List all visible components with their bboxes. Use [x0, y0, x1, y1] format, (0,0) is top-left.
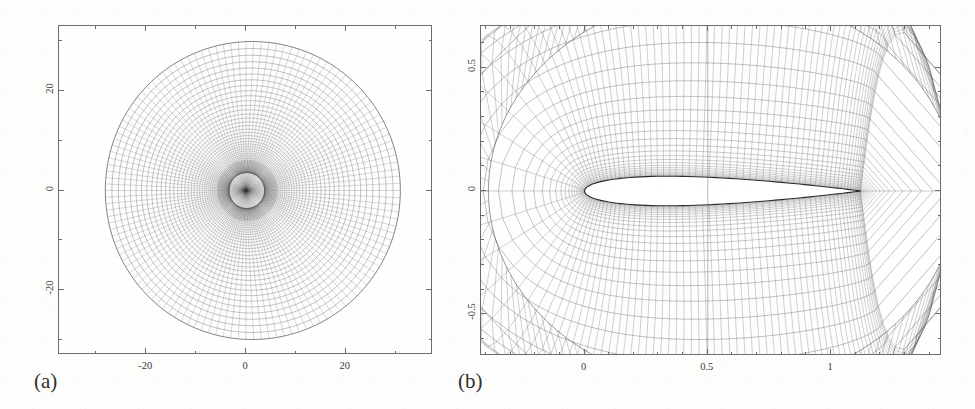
axis-tick: [657, 352, 658, 356]
axis-tick: [633, 352, 634, 356]
mesh-line: [216, 46, 243, 173]
y-tick-label: -20: [44, 275, 55, 301]
axis-tick: [95, 25, 96, 29]
axis-tick: [682, 352, 683, 356]
mesh-line: [264, 141, 392, 185]
mesh-line: [238, 208, 245, 339]
axis-tick: [95, 351, 96, 355]
mesh-line: [557, 26, 625, 178]
axis-tick: [58, 40, 62, 41]
mesh-line: [743, 203, 759, 355]
axis-tick: [935, 67, 941, 68]
mesh-line: [265, 183, 401, 189]
mesh-line: [769, 201, 801, 355]
x-tick-label: 1: [827, 361, 832, 372]
axis-tick: [480, 116, 484, 117]
mesh-line: [265, 191, 401, 197]
mesh-line: [506, 199, 595, 355]
mesh-line: [666, 205, 692, 355]
x-tick-label: 0: [581, 361, 586, 372]
mesh-line: [261, 102, 371, 180]
mesh-line: [516, 26, 601, 182]
axis-tick: [830, 349, 831, 355]
axis-tick: [938, 42, 942, 43]
axis-tick: [584, 25, 585, 31]
mesh-line: [114, 197, 230, 243]
axis-tick: [534, 25, 535, 29]
mesh-line: [756, 26, 779, 180]
mesh-line: [142, 202, 234, 289]
mesh-line: [256, 62, 327, 175]
mesh-line: [644, 206, 677, 355]
mesh-line: [119, 198, 230, 255]
axis-tick: [429, 339, 433, 340]
axis-tick: [58, 190, 64, 191]
mesh-line: [481, 35, 588, 186]
axis-tick: [145, 348, 146, 354]
mesh-line: [260, 90, 362, 178]
mesh-line: [688, 26, 707, 177]
axis-tick: [534, 352, 535, 356]
axis-tick: [58, 289, 64, 290]
axis-tick: [608, 25, 609, 29]
mesh-line: [250, 208, 277, 337]
axis-tick: [480, 215, 484, 216]
axis-tick: [938, 91, 942, 92]
axis-tick: [805, 352, 806, 356]
plot-frame-b: [480, 25, 941, 355]
airfoil-mesh: [481, 26, 941, 355]
axis-tick: [830, 25, 831, 31]
axis-tick: [395, 25, 396, 29]
axis-tick: [938, 165, 942, 166]
x-tick-label: -20: [138, 360, 152, 371]
y-tick-label: -0.5: [466, 299, 477, 325]
mesh-line: [506, 26, 595, 183]
axis-tick: [731, 352, 732, 356]
axis-tick: [608, 352, 609, 356]
panel-label-a: (a): [34, 369, 57, 394]
mesh-line: [711, 26, 723, 178]
axis-tick: [855, 25, 856, 29]
mesh-line: [264, 195, 396, 226]
axis-tick: [929, 352, 930, 356]
mesh-line: [677, 205, 699, 355]
axis-tick: [510, 25, 511, 29]
mesh-line: [729, 204, 740, 355]
mesh-line: [261, 202, 367, 285]
axis-tick: [58, 339, 62, 340]
axis-tick: [480, 313, 486, 314]
axis-tick: [929, 25, 930, 29]
mesh-line: [257, 205, 340, 311]
axis-tick: [935, 190, 941, 191]
mesh-line: [841, 26, 923, 189]
mesh-line: [481, 196, 588, 347]
axis-tick: [731, 25, 732, 29]
mesh-line: [152, 204, 235, 300]
mesh-line: [677, 26, 699, 177]
axis-tick: [480, 338, 484, 339]
axis-tick: [429, 40, 433, 41]
axis-tick: [559, 25, 560, 29]
axis-tick: [58, 90, 64, 91]
mesh-line: [756, 202, 779, 355]
mesh-line: [853, 192, 941, 355]
mesh-line: [250, 44, 277, 173]
axis-tick: [480, 264, 484, 265]
axis-tick: [935, 313, 941, 314]
mesh-line: [261, 96, 367, 179]
mesh-line: [723, 204, 732, 355]
mesh-line: [850, 26, 939, 190]
y-tick-label: 0: [466, 176, 477, 202]
axis-tick: [904, 25, 905, 29]
x-tick-label: 0: [242, 360, 247, 371]
mesh-line: [264, 196, 392, 240]
figure-container: -20020-20020 (a) 00.51-0.500.5 (b): [0, 0, 975, 409]
plot-frame-a: [58, 25, 432, 354]
mesh-line: [238, 42, 245, 173]
mesh-line: [114, 139, 230, 185]
axis-tick: [195, 25, 196, 29]
axis-tick: [426, 190, 432, 191]
axis-tick: [245, 25, 246, 31]
axis-tick: [395, 351, 396, 355]
axis-tick: [480, 91, 484, 92]
